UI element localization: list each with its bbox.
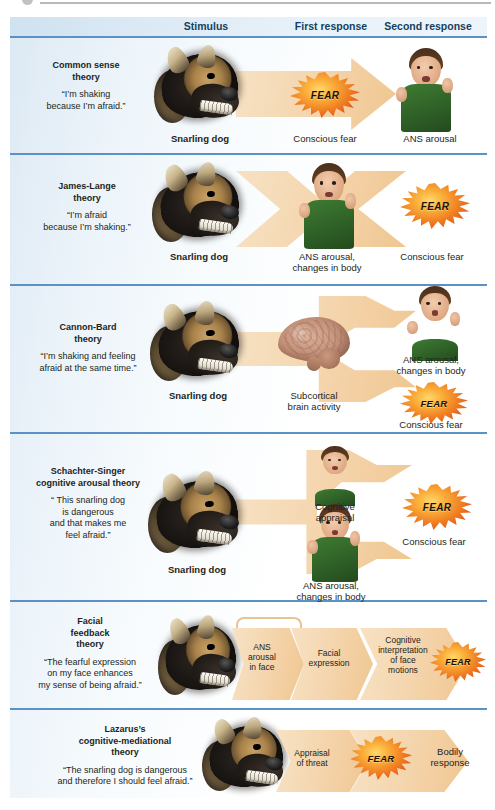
theory-quote: “ This snarling dog is dangerous and tha… bbox=[14, 495, 162, 541]
caption-stimulus: Snarling dog bbox=[152, 251, 246, 262]
theory-title: Common sense theory bbox=[16, 60, 156, 83]
theory-quote: “I’m afraid because I’m shaking.” bbox=[14, 210, 160, 233]
theory-quote: “The fearful expression on my face enhan… bbox=[10, 657, 170, 692]
column-header-stimulus: Stimulus bbox=[160, 20, 252, 32]
fear-label: FEAR bbox=[420, 398, 447, 409]
caption-second-response-top: ANS arousal, changes in body bbox=[378, 354, 484, 376]
caption-first-response-top: Cognitive appraisal bbox=[288, 501, 382, 523]
caption-rule bbox=[40, 2, 491, 4]
theory-label-james-lange: James-Lange theory “I’m afraid because I… bbox=[14, 181, 160, 233]
figure-panel: Stimulus First response Second response … bbox=[10, 17, 487, 798]
caption-second-response: ANS arousal bbox=[382, 133, 478, 144]
theory-row-facial-feedback: Facial feedback theory “The fearful expr… bbox=[10, 602, 487, 710]
theory-label-schachter-singer: Schachter-Singer cognitive arousal theor… bbox=[14, 466, 162, 541]
snarling-dog-image bbox=[158, 614, 242, 702]
stage-label-2: Facial expression bbox=[296, 648, 362, 668]
fearful-boy-image bbox=[298, 163, 360, 247]
fear-label: FEAR bbox=[445, 657, 471, 667]
brain-image bbox=[278, 312, 350, 374]
snarling-dog-image bbox=[150, 300, 246, 388]
theory-title: James-Lange theory bbox=[14, 181, 160, 204]
figure-caption-strip bbox=[0, 0, 495, 14]
theory-title: Cannon-Bard theory bbox=[12, 322, 164, 345]
theory-row-lazarus: Lazarus’s cognitive-mediational theory “… bbox=[10, 710, 487, 798]
emotion-theories-figure: Stimulus First response Second response … bbox=[0, 0, 495, 810]
theory-row-schachter-singer: Schachter-Singer cognitive arousal theor… bbox=[10, 434, 487, 602]
fearful-boy-image bbox=[406, 286, 464, 358]
theory-title: Schachter-Singer cognitive arousal theor… bbox=[14, 466, 162, 489]
caption-second-response: Conscious fear bbox=[382, 251, 482, 262]
fear-label: FEAR bbox=[423, 502, 451, 513]
snarling-dog-image bbox=[152, 161, 246, 249]
snarling-dog-image bbox=[148, 470, 246, 560]
column-header-first-response: First response bbox=[282, 20, 380, 32]
caption-first-response-bottom: ANS arousal, changes in body bbox=[272, 580, 390, 602]
snarling-dog-image bbox=[154, 44, 246, 130]
fear-label: FEAR bbox=[311, 90, 339, 101]
theory-row-cannon-bard: Cannon-Bard theory “I’m shaking and feel… bbox=[10, 286, 487, 434]
caption-stimulus: Snarling dog bbox=[154, 133, 246, 144]
fear-burst: FEAR bbox=[402, 484, 472, 530]
caption-first-response: Subcortical brain activity bbox=[264, 390, 364, 412]
theory-label-cannon-bard: Cannon-Bard theory “I’m shaking and feel… bbox=[12, 322, 164, 374]
theory-label-common-sense: Common sense theory “I’m shaking because… bbox=[16, 60, 156, 112]
caption-first-response: ANS arousal, changes in body bbox=[274, 251, 380, 273]
theory-row-james-lange: James-Lange theory “I’m afraid because I… bbox=[10, 155, 487, 286]
caption-second-response: Conscious fear bbox=[384, 536, 484, 547]
fear-label: FEAR bbox=[367, 753, 394, 764]
column-header-second-response: Second response bbox=[376, 20, 480, 32]
caption-first-response: Conscious fear bbox=[272, 133, 378, 144]
stage-label-1: Appraisal of threat bbox=[278, 748, 346, 768]
stage-label-1: ANS arousal in face bbox=[234, 642, 290, 672]
caption-second-response-bottom: Conscious fear bbox=[378, 419, 484, 430]
fear-label: FEAR bbox=[421, 201, 449, 212]
theory-quote: “I’m shaking and feeling afraid at the s… bbox=[12, 351, 164, 374]
caption-stimulus: Snarling dog bbox=[150, 390, 246, 401]
fear-burst: FEAR bbox=[400, 183, 470, 229]
theory-row-common-sense: Common sense theory “I’m shaking because… bbox=[10, 36, 487, 155]
column-header-row: Stimulus First response Second response bbox=[10, 17, 487, 38]
caption-stimulus: Snarling dog bbox=[148, 564, 246, 575]
stage-label-3: Cognitive interpretation of face motions bbox=[362, 635, 444, 675]
fearful-boy-image bbox=[395, 48, 457, 130]
fear-burst: FEAR bbox=[400, 382, 468, 424]
theory-title: Facial feedback theory bbox=[10, 616, 170, 651]
snarling-dog-image bbox=[202, 716, 290, 798]
figure-marker-icon bbox=[22, 0, 33, 5]
theory-label-facial-feedback: Facial feedback theory “The fearful expr… bbox=[10, 616, 170, 691]
caption-end-response: Bodily response bbox=[414, 746, 486, 768]
boy-head-image bbox=[310, 446, 360, 504]
theory-quote: “I’m shaking because I’m afraid.” bbox=[16, 89, 156, 112]
